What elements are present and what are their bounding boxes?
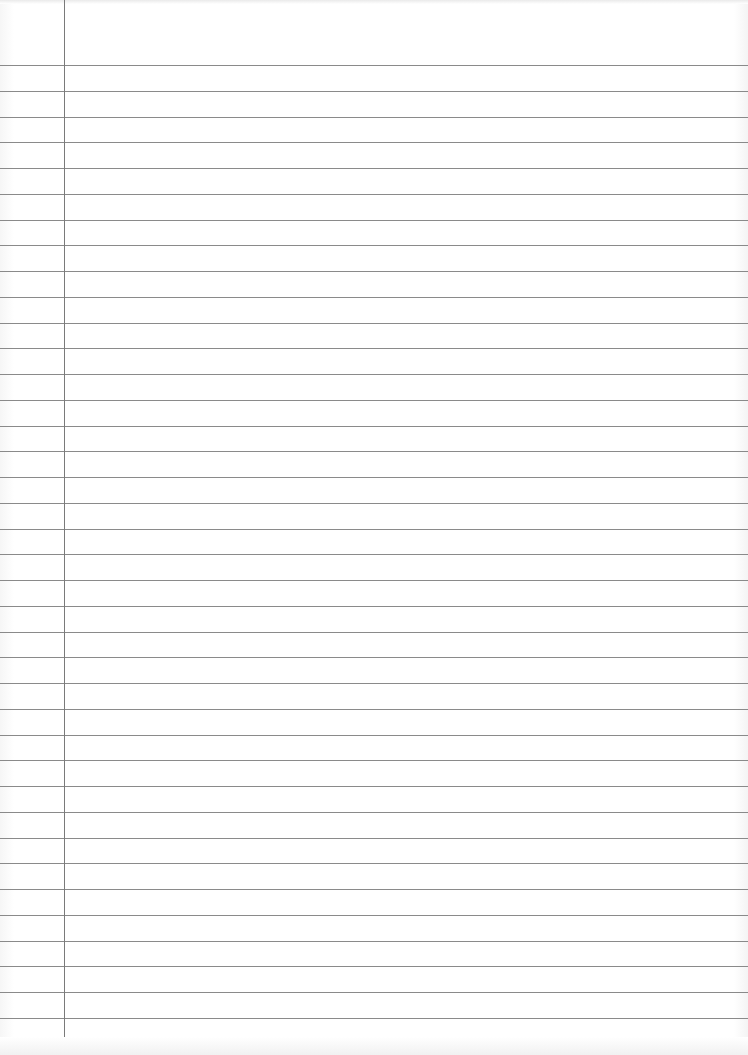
margin-line	[64, 0, 65, 1050]
ruled-line	[0, 529, 748, 530]
ruled-line	[0, 735, 748, 736]
ruled-line	[0, 323, 748, 324]
ruled-line	[0, 400, 748, 401]
paper-top-edge	[0, 0, 748, 4]
ruled-line	[0, 941, 748, 942]
notebook-page	[0, 0, 748, 1055]
ruled-line	[0, 477, 748, 478]
ruled-line	[0, 632, 748, 633]
ruled-line	[0, 348, 748, 349]
ruled-line	[0, 426, 748, 427]
ruled-line	[0, 271, 748, 272]
ruled-line	[0, 297, 748, 298]
ruled-line	[0, 863, 748, 864]
ruled-line	[0, 91, 748, 92]
ruled-line	[0, 451, 748, 452]
ruled-line	[0, 117, 748, 118]
ruled-line	[0, 194, 748, 195]
ruled-line	[0, 220, 748, 221]
ruled-line	[0, 374, 748, 375]
ruled-line	[0, 168, 748, 169]
ruled-line	[0, 657, 748, 658]
ruled-line	[0, 838, 748, 839]
ruled-line	[0, 503, 748, 504]
ruled-line	[0, 554, 748, 555]
ruled-line	[0, 760, 748, 761]
ruled-line	[0, 966, 748, 967]
ruled-line	[0, 606, 748, 607]
ruled-line	[0, 142, 748, 143]
ruled-line	[0, 786, 748, 787]
ruled-line	[0, 915, 748, 916]
ruled-line	[0, 65, 748, 66]
paper-bottom-edge	[0, 1037, 748, 1055]
ruled-line	[0, 245, 748, 246]
ruled-line	[0, 709, 748, 710]
ruled-line	[0, 992, 748, 993]
ruled-line	[0, 812, 748, 813]
ruled-line	[0, 580, 748, 581]
ruled-line	[0, 889, 748, 890]
ruled-line	[0, 683, 748, 684]
ruled-line	[0, 1018, 748, 1019]
